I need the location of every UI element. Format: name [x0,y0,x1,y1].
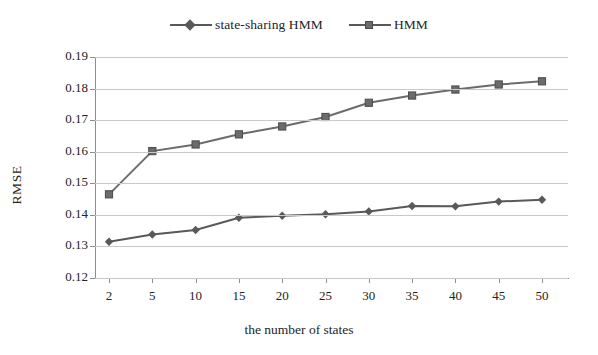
y-gridline [95,120,568,121]
chart-figure: state-sharing HMM HMM RMSE 0.120.130.140… [0,0,598,355]
x-tick-label: 45 [479,288,519,304]
data-point-diamond-marker [408,202,416,210]
data-point-diamond-marker [451,202,459,210]
data-point-square-marker [192,141,199,148]
legend-item-hmm: HMM [349,17,428,33]
data-point-diamond-marker [148,230,156,238]
y-gridline [95,215,568,216]
legend-marker-diamond-icon [170,19,212,31]
legend-label-hmm: HMM [394,17,428,33]
y-tick-label: 0.13 [44,237,88,253]
y-gridline [95,278,568,279]
data-point-diamond-marker [495,197,503,205]
data-point-square-marker [495,81,502,88]
y-axis-title-text: RMSE [9,166,25,205]
y-axis-title: RMSE [4,125,30,245]
y-tick-label: 0.15 [44,174,88,190]
legend-item-state-sharing-hmm: state-sharing HMM [170,17,323,33]
chart-legend: state-sharing HMM HMM [0,12,598,38]
x-tick-label: 5 [132,288,172,304]
x-tick-label: 20 [262,288,302,304]
series-line [109,81,542,194]
data-point-square-marker [409,92,416,99]
x-tick-label: 15 [219,288,259,304]
data-point-square-marker [279,123,286,130]
data-point-square-marker [235,131,242,138]
x-tick-label: 35 [392,288,432,304]
data-point-diamond-marker [105,237,113,245]
x-tick-label: 40 [435,288,475,304]
y-tick-label: 0.17 [44,111,88,127]
legend-marker-square-icon [349,19,391,31]
x-axis-title: the number of states [0,322,598,338]
y-gridline [95,152,568,153]
x-tick-label: 50 [522,288,562,304]
y-tick-label: 0.16 [44,143,88,159]
x-tick-label: 25 [306,288,346,304]
y-gridline [95,89,568,90]
series-2 [105,78,545,198]
y-tick-label: 0.19 [44,48,88,64]
plot-area [95,57,568,278]
data-point-diamond-marker [538,196,546,204]
data-point-diamond-marker [191,226,199,234]
y-gridline [95,246,568,247]
x-tick-label: 2 [89,288,129,304]
y-tick-label: 0.14 [44,206,88,222]
y-gridline [95,183,568,184]
series-line [109,200,542,242]
legend-label-state-sharing-hmm: state-sharing HMM [215,17,323,33]
data-point-square-marker [365,99,372,106]
y-tick-label: 0.18 [44,80,88,96]
data-point-square-marker [105,191,112,198]
x-tick-label: 30 [349,288,389,304]
series-1 [105,196,546,246]
data-point-square-marker [538,78,545,85]
y-gridline [95,57,568,58]
x-tick-label: 10 [176,288,216,304]
series-layer [95,57,568,278]
y-tick-label: 0.12 [44,269,88,285]
